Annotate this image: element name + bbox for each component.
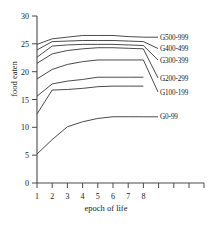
series-label-g400: G400-499 — [160, 45, 189, 53]
x-tick-label-8: 8 — [141, 192, 145, 201]
y-tick-label-15: 15 — [21, 96, 29, 105]
series-label-g300: G300-399 — [160, 57, 189, 65]
x-tick-label-1: 1 — [35, 192, 39, 201]
y-tick-label-30: 30 — [21, 12, 29, 21]
x-tick-label-7: 7 — [126, 192, 130, 201]
x-tick-label-2: 2 — [50, 192, 54, 201]
series-label-g100: G100-199 — [160, 89, 189, 97]
chart-container: food eaten epoch of life 30 25 20 15 10 … — [0, 0, 214, 231]
x-tick-label-5: 5 — [96, 192, 100, 201]
series-line-g0-99 — [37, 117, 143, 154]
y-tick-label-25: 25 — [21, 40, 29, 49]
leader-line-g100 — [143, 60, 158, 92]
x-tick-label-4: 4 — [81, 192, 85, 201]
series-line-unlabeled-mid-lower — [37, 86, 143, 114]
y-tick-label-5: 5 — [25, 151, 29, 160]
y-tick-label-10: 10 — [21, 123, 29, 132]
series-label-g0: G0-99 — [160, 113, 178, 121]
x-tick-label-6: 6 — [111, 192, 115, 201]
series-line-g500-999 — [37, 35, 143, 44]
series-line-g300-399 — [37, 44, 143, 57]
series-line-g100-199 — [37, 60, 143, 79]
series-label-g200: G200-299 — [160, 75, 189, 83]
y-tick-label-0: 0 — [25, 179, 29, 188]
y-tick-label-20: 20 — [21, 68, 29, 77]
series-label-g500: G500-999 — [160, 34, 189, 42]
x-tick-label-3: 3 — [65, 192, 69, 201]
plot-area: 30 25 20 15 10 5 0 1 2 3 4 5 6 7 8 G5 — [0, 0, 214, 231]
series-group — [37, 35, 143, 154]
legend-group: G500-999 G400-499 G300-399 G200-299 G100… — [143, 34, 188, 122]
series-line-unlabeled-mid-upper — [37, 77, 143, 96]
